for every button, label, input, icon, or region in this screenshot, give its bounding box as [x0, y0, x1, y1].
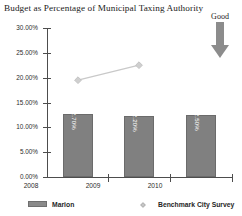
legend-swatch-icon [28, 201, 47, 207]
y-axis-tick-label: 15.00% [16, 98, 38, 107]
good-annotation-label: Good [203, 12, 237, 21]
x-axis-label-2010: 2010 [132, 181, 178, 190]
benchmark-marker-2008[interactable] [75, 77, 82, 84]
benchmark-marker-2009[interactable] [136, 62, 143, 69]
y-axis-tick-label: 20.00% [16, 73, 38, 82]
y-axis-tick-label: 25.00% [16, 48, 38, 57]
x-axis-label-2008: 2008 [8, 181, 54, 190]
legend-label: Marion [52, 200, 74, 209]
y-axis-tick-label: 0.00% [20, 172, 38, 181]
y-axis-tick-label: 5.00% [20, 147, 38, 156]
plot-area: 0.00% 5.00% 10.00% 15.00% 20.00% 25.00% … [47, 28, 233, 178]
y-axis-tick-label: 10.00% [16, 122, 38, 131]
chart-legend: Marion Benchmark City Survey [0, 198, 242, 212]
x-axis-label-2009: 2009 [70, 181, 116, 190]
benchmark-line-series [47, 28, 233, 178]
chart-title: Budget as Percentage of Municipal Taxing… [4, 3, 218, 14]
benchmark-line-segment [78, 65, 139, 80]
legend-item-benchmark-city-survey[interactable]: Benchmark City Survey [134, 198, 234, 210]
legend-marker-icon [134, 201, 153, 207]
legend-label: Benchmark City Survey [158, 200, 234, 209]
chart-container: Budget as Percentage of Municipal Taxing… [0, 0, 242, 216]
legend-item-marion[interactable]: Marion [28, 198, 74, 210]
y-axis-tick-label: 30.00% [16, 23, 38, 32]
